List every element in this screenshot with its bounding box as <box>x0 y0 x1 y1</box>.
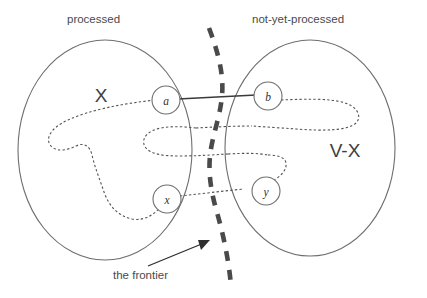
dotted-path-left-loop <box>49 100 160 219</box>
diagram-canvas: a b x y X V-X processed not-yet-processe… <box>0 0 427 298</box>
node-a: a <box>152 86 180 114</box>
node-a-label: a <box>163 95 169 107</box>
header-label-not-yet-processed: not-yet-processed <box>252 13 344 25</box>
frontier-annotation-arrow-line <box>148 243 204 266</box>
node-x-label: x <box>163 194 170 206</box>
node-b-label: b <box>265 91 271 103</box>
frontier-annotation-arrow-head <box>198 240 210 250</box>
node-y: y <box>252 177 280 205</box>
node-x: x <box>153 185 181 213</box>
set-ellipse-x <box>18 40 192 260</box>
diagram-svg: a b x y X V-X <box>0 0 427 298</box>
dotted-path-inner-hook <box>144 127 228 156</box>
node-y-label: y <box>262 186 269 199</box>
set-label-v-minus-x: V-X <box>330 140 361 161</box>
header-label-processed: processed <box>67 13 120 25</box>
dotted-path-y-hook <box>268 155 286 180</box>
dotted-path-x-to-y <box>180 189 244 196</box>
dotted-path-crossing-lower <box>228 153 268 155</box>
set-ellipse-v-minus-x <box>225 40 395 256</box>
frontier-dashed-curve <box>209 28 231 286</box>
edge-a-to-b <box>178 95 256 99</box>
frontier-caption: the frontier <box>113 269 168 281</box>
set-label-x: X <box>95 85 108 106</box>
dotted-path-crossing-upper <box>196 126 252 128</box>
node-b: b <box>254 82 282 110</box>
